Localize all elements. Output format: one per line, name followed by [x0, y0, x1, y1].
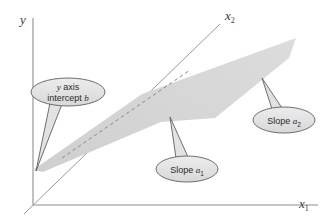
regression-plane-figure: y axis intercept b Slope a1 Slope a2 y [0, 0, 325, 221]
slope-a2-callout[interactable]: Slope a2 [253, 78, 315, 133]
slope-word-a2: Slope [267, 116, 293, 126]
slope-word-a1: Slope [170, 165, 196, 175]
y-axis-intercept-callout-line2: intercept b [47, 93, 89, 103]
intercept-word: intercept [47, 93, 84, 103]
slope-a1-callout[interactable]: Slope a1 [156, 117, 218, 182]
x2-axis-label: x2 [224, 8, 235, 25]
x1-axis-subscript: 1 [305, 204, 309, 213]
x1-axis-label: x1 [298, 196, 309, 213]
y-axis-word: axis [61, 82, 80, 92]
a2-subscript: 2 [297, 121, 301, 128]
b-symbol: b [84, 93, 89, 103]
diagram-canvas: y axis intercept b Slope a1 Slope a2 y [0, 0, 325, 221]
y-axis-label: y [18, 12, 26, 27]
y-axis-intercept-callout-line1: y axis [56, 82, 80, 92]
slope-a1-callout-tail [170, 117, 188, 158]
slope-a2-callout-tail [262, 78, 284, 111]
a1-subscript: 1 [200, 170, 204, 177]
x2-axis-subscript: 2 [231, 16, 235, 25]
y-axis-label-text: y [18, 12, 26, 27]
